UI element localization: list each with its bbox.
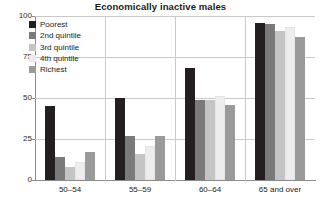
x-tick-label: 60–64 (175, 185, 245, 195)
x-tick-label: 55–59 (105, 185, 175, 195)
chart-legend: Poorest2nd quintile3rd quintile4th quint… (29, 19, 81, 75)
legend-item[interactable]: 2nd quintile (29, 30, 81, 41)
x-tick-label: 65 and over (245, 185, 315, 195)
bar-group (245, 16, 315, 180)
x-tick-label: 50–54 (35, 185, 105, 195)
chart-title: Economically inactive males (0, 1, 321, 13)
bar (45, 106, 55, 180)
legend-label: 4th quintile (40, 54, 79, 63)
legend-label: 3rd quintile (40, 43, 79, 52)
legend-swatch-icon (29, 21, 36, 28)
y-tick-label: 25 (6, 135, 32, 143)
legend-swatch-icon (29, 44, 36, 51)
bar (145, 146, 155, 180)
legend-item[interactable]: Poorest (29, 19, 81, 30)
y-tick-label: 0 (6, 176, 32, 184)
legend-swatch-icon (29, 55, 36, 62)
legend-swatch-icon (29, 66, 36, 73)
bar (255, 23, 265, 180)
bar (135, 154, 145, 180)
bar (215, 96, 225, 180)
y-tick-label: 50 (6, 94, 32, 102)
bar-group (175, 16, 245, 180)
legend-item[interactable]: Richest (29, 64, 81, 75)
bar (55, 157, 65, 180)
bar (65, 167, 75, 180)
bar (155, 136, 165, 180)
legend-label: Poorest (40, 20, 68, 29)
bar (225, 105, 235, 180)
legend-label: Richest (40, 65, 67, 74)
legend-item[interactable]: 4th quintile (29, 53, 81, 64)
chart-container: Economically inactive males 0255075100 5… (0, 0, 321, 201)
bar (115, 98, 125, 180)
bar (75, 162, 85, 180)
legend-label: 2nd quintile (40, 31, 81, 40)
bar (85, 152, 95, 180)
legend-swatch-icon (29, 32, 36, 39)
bar (185, 68, 195, 180)
bar (285, 27, 295, 180)
bar (195, 100, 205, 180)
y-tick-mark (31, 180, 35, 181)
bar (275, 31, 285, 180)
bar (295, 37, 305, 180)
bar-group (105, 16, 175, 180)
legend-item[interactable]: 3rd quintile (29, 42, 81, 53)
bar (205, 100, 215, 180)
bar (125, 136, 135, 180)
bar (265, 24, 275, 180)
